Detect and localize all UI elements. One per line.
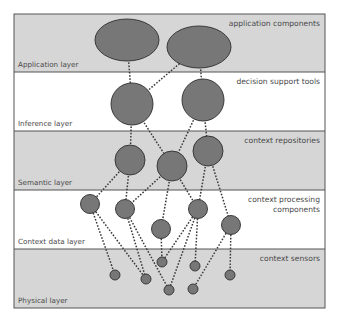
node-physical-P3 [157, 257, 167, 267]
layer-description-semantic: context repositories [244, 136, 320, 145]
node-context-data-C1 [81, 195, 100, 214]
node-physical-P1 [110, 270, 120, 280]
layer-name-physical: Physical layer [18, 296, 68, 305]
layer-name-inference: Inference layer [18, 119, 72, 128]
node-application-A2 [167, 26, 231, 68]
node-physical-P4 [164, 285, 174, 295]
node-context-data-C3 [152, 220, 171, 239]
node-semantic-S1 [115, 145, 145, 175]
node-physical-P7 [225, 270, 235, 280]
node-physical-P6 [190, 261, 200, 271]
node-context-data-C5 [222, 216, 241, 235]
layer-description-context-data: components [273, 205, 320, 214]
node-semantic-S3 [193, 136, 223, 166]
node-physical-P2 [141, 274, 151, 284]
node-semantic-S2 [157, 151, 187, 181]
layer-name-semantic: Semantic layer [18, 178, 72, 187]
node-physical-P5 [188, 284, 198, 294]
layer-name-application: Application layer [18, 60, 79, 69]
layer-name-context-data: Context data layer [18, 237, 85, 246]
layer-description-application: application components [229, 19, 320, 28]
node-inference-I2 [182, 79, 224, 121]
node-inference-I1 [111, 83, 153, 125]
node-application-A1 [95, 19, 159, 61]
node-context-data-C2 [116, 200, 135, 219]
layer-description-inference: decision support tools [236, 77, 320, 86]
node-context-data-C4 [189, 200, 208, 219]
layer-description-physical: context sensors [260, 254, 320, 263]
layer-description-context-data: context processing [248, 195, 320, 204]
layered-architecture-diagram: Application layerapplication componentsI… [0, 0, 338, 323]
